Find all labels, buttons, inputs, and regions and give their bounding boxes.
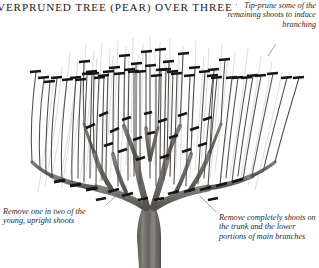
caption-remove-trunk: Remove completely shoots on the trunk an…	[219, 213, 318, 241]
trunk	[137, 206, 161, 268]
caption-remove-half: Remove one in two of the young, upright …	[3, 207, 107, 226]
figure-title: VERPRUNED TREE (PEAR) OVER THREE YEARS	[0, 1, 237, 13]
figure-canvas: VERPRUNED TREE (PEAR) OVER THREE YEARS T…	[0, 0, 319, 268]
caption-tip-prune: Tip-prune some of the remaining shoots t…	[224, 1, 316, 29]
